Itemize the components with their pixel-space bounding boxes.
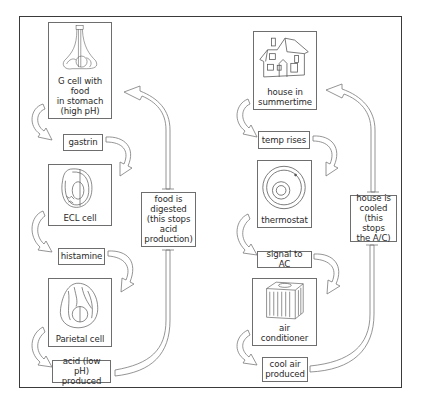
histamine-box: histamine [58, 248, 105, 265]
food-digested-box: food is digested (this stops acid produc… [141, 192, 196, 247]
house-label: house in summertime [256, 86, 314, 109]
food-digested-label: food is digested (this stops acid produc… [142, 193, 194, 246]
signal-to-ac-label: signal to AC [258, 248, 311, 271]
thermostat-icon [258, 161, 311, 214]
house-box: house in summertime [253, 31, 317, 110]
air-conditioner-icon [253, 279, 316, 322]
cool-air-box: cool air produced [262, 357, 308, 382]
g-cell-label: G cell with food in stomach (high pH) [49, 75, 111, 118]
house-icon [254, 32, 316, 86]
cool-air-label: cool air produced [263, 358, 307, 381]
air-conditioner-box: air conditioner [252, 278, 317, 346]
gastrin-box: gastrin [63, 134, 103, 151]
air-conditioner-label: air conditioner [253, 322, 316, 345]
ecl-cell-icon [49, 165, 111, 212]
gastrin-label: gastrin [66, 136, 99, 149]
house-cooled-label: house is cooled (this stops the A/C) [351, 192, 396, 245]
g-cell-icon [49, 23, 111, 75]
thermostat-box: thermostat [257, 160, 312, 228]
ecl-cell-box: ECL cell [48, 164, 112, 226]
g-cell-box: G cell with food in stomach (high pH) [48, 22, 112, 119]
acid-produced-box: acid (low pH) produced [52, 360, 111, 383]
signal-to-ac-box: signal to AC [257, 251, 312, 268]
temp-rises-box: temp rises [258, 131, 310, 149]
parietal-cell-box: Parietal cell [48, 278, 112, 347]
acid-produced-label: acid (low pH) produced [53, 355, 110, 388]
thermostat-label: thermostat [259, 214, 310, 227]
temp-rises-label: temp rises [260, 134, 308, 147]
house-cooled-box: house is cooled (this stops the A/C) [350, 195, 397, 242]
parietal-cell-icon [49, 279, 111, 333]
ecl-cell-label: ECL cell [62, 212, 99, 225]
histamine-label: histamine [59, 250, 105, 263]
parietal-cell-label: Parietal cell [54, 333, 107, 346]
